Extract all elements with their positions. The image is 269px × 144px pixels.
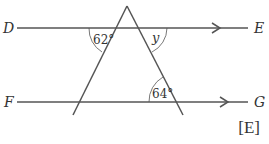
angle-label-y: y <box>151 30 160 45</box>
mark-label: [E] <box>238 118 260 138</box>
angle-label-64: 64° <box>152 87 173 101</box>
geometry-diagram: D E F G 62° y 64° <box>0 0 269 144</box>
point-label-f: F <box>3 94 15 110</box>
transversal-left <box>73 6 127 115</box>
angle-label-62: 62° <box>93 33 114 47</box>
point-label-g: G <box>254 94 265 110</box>
point-label-e: E <box>253 20 264 36</box>
point-label-d: D <box>2 20 14 36</box>
